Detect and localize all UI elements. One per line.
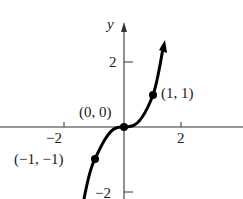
point-neg1-neg1 (91, 155, 99, 163)
cubic-function-plot (0, 0, 243, 199)
y-axis-label: y (107, 17, 114, 32)
y-tick-label-neg2: −2 (95, 186, 111, 199)
y-axis-arrow-icon (121, 22, 127, 32)
point-1-1 (149, 91, 157, 99)
point-label-neg1-neg1: (−1, −1) (14, 152, 63, 167)
curve-arrow-icon (159, 40, 167, 53)
y-tick-label-2: 2 (109, 55, 117, 70)
point-origin (120, 123, 128, 131)
x-tick-label-neg2: −2 (46, 131, 62, 146)
point-label-1-1: (1, 1) (161, 86, 194, 101)
x-tick-label-2: 2 (177, 131, 185, 146)
point-label-origin: (0, 0) (79, 105, 112, 120)
